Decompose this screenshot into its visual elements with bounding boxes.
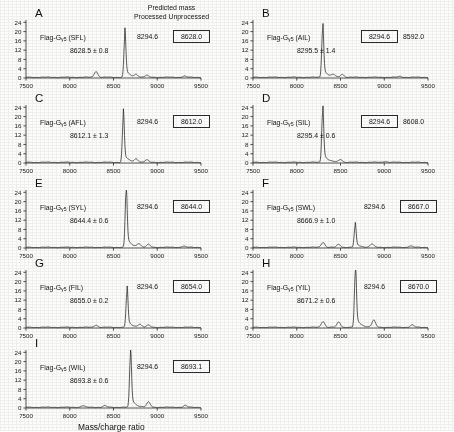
predicted-processed-value: 8294.6 — [361, 118, 398, 126]
y-tick-label: 16 — [15, 367, 22, 374]
y-tick-label: 12 — [242, 296, 249, 303]
y-tick-label: 20 — [15, 358, 22, 365]
sample-label-prefix: Flag-G — [40, 364, 61, 371]
panel-letter-c: C — [35, 92, 44, 104]
sample-label: Flag-Gγ5 (YIL) — [267, 284, 310, 292]
x-tick-label: 8500 — [334, 82, 348, 89]
sample-label: Flag-Gγ5 (AIL) — [267, 34, 310, 42]
x-tick-label: 8000 — [63, 412, 77, 419]
y-tick-label: 12 — [242, 216, 249, 223]
sample-label: Flag-Gγ5 (FIL) — [40, 284, 83, 292]
sample-label-prefix: Flag-G — [40, 284, 61, 291]
x-tick-label: 9500 — [421, 332, 435, 339]
predicted-processed-text: 8294.6 — [134, 281, 161, 292]
y-tick-label: 16 — [242, 37, 249, 44]
predicted-processed-text: 8294.6 — [361, 201, 388, 212]
measured-mass-label: 8644.4 ± 0.6 — [70, 217, 108, 224]
sample-label-prefix: Flag-G — [40, 34, 61, 41]
y-tick-label: 4 — [245, 315, 249, 322]
sample-label-prefix: Flag-G — [267, 284, 288, 291]
y-tick-label: 8 — [245, 226, 249, 233]
x-tick-label: 8500 — [107, 82, 121, 89]
y-tick-label: 8 — [245, 141, 249, 148]
x-tick-label: 7500 — [246, 167, 260, 174]
predicted-unprocessed-value: 8667.0 — [400, 203, 437, 211]
x-tick-label: 9000 — [150, 412, 164, 419]
y-tick-label: 8 — [245, 306, 249, 313]
predicted-unprocessed-value: 8608.0 — [400, 118, 427, 126]
spectrum-panel-h: 0481216202475008000850090009500HFlag-Gγ5… — [227, 254, 432, 346]
predicted-unprocessed-text: 8670.0 — [400, 280, 437, 293]
predicted-unprocessed-text: 8628.0 — [173, 30, 210, 43]
y-tick-label: 8 — [18, 141, 22, 148]
predicted-processed-value: 8294.6 — [361, 283, 388, 291]
predicted-unprocessed-text: 8612.0 — [173, 115, 210, 128]
x-tick-label: 7500 — [19, 412, 33, 419]
spectrum-trace — [26, 190, 201, 248]
measured-mass-label: 8693.8 ± 0.6 — [70, 377, 108, 384]
y-tick-label: 4 — [18, 235, 22, 242]
y-tick-label: 20 — [242, 198, 249, 205]
y-tick-label: 20 — [15, 198, 22, 205]
y-tick-label: 24 — [242, 269, 249, 276]
y-tick-label: 0 — [18, 159, 22, 166]
y-tick-label: 16 — [242, 122, 249, 129]
predicted-unprocessed-text: 8667.0 — [400, 200, 437, 213]
sample-label: Flag-Gγ5 (SYL) — [40, 204, 86, 212]
spectrum-panel-g: 0481216202475008000850090009500GFlag-Gγ5… — [0, 254, 205, 346]
predicted-processed-value: 8294.6 — [134, 283, 161, 291]
x-tick-label: 7500 — [19, 167, 33, 174]
predicted-unprocessed-value: 8592.0 — [400, 33, 427, 41]
sample-label-suffix: (AFL) — [67, 119, 86, 126]
x-tick-label: 8500 — [334, 332, 348, 339]
y-tick-label: 12 — [15, 131, 22, 138]
x-tick-label: 9000 — [377, 82, 391, 89]
predicted-processed-text: 8294.6 — [134, 361, 161, 372]
sample-label-suffix: (SFL) — [67, 34, 86, 41]
sample-label-prefix: Flag-G — [267, 119, 288, 126]
measured-mass-label: 8655.0 ± 0.2 — [70, 297, 108, 304]
sample-label-suffix: (SYL) — [67, 204, 87, 211]
y-tick-label: 24 — [15, 349, 22, 356]
y-tick-label: 24 — [15, 189, 22, 196]
y-tick-label: 16 — [15, 122, 22, 129]
y-tick-label: 12 — [15, 296, 22, 303]
y-tick-label: 20 — [15, 28, 22, 35]
y-tick-label: 4 — [245, 235, 249, 242]
y-tick-label: 16 — [242, 287, 249, 294]
predicted-unprocessed-value: 8654.0 — [173, 283, 210, 291]
x-tick-label: 9500 — [194, 82, 208, 89]
sample-label-prefix: Flag-G — [267, 204, 288, 211]
y-tick-label: 4 — [18, 395, 22, 402]
spectrum-trace — [253, 270, 428, 328]
x-tick-label: 9500 — [421, 82, 435, 89]
sample-label-suffix: (SWL) — [294, 204, 315, 211]
predicted-processed-text: 8294.6 — [361, 30, 398, 43]
predicted-unprocessed-value: 8612.0 — [173, 118, 210, 126]
x-tick-label: 8000 — [290, 332, 304, 339]
sample-label: Flag-Gγ5 (SIL) — [267, 119, 310, 127]
y-tick-label: 0 — [18, 244, 22, 251]
predicted-processed-text: 8294.6 — [361, 115, 398, 128]
y-tick-label: 20 — [242, 28, 249, 35]
y-tick-label: 20 — [15, 113, 22, 120]
y-tick-label: 24 — [15, 19, 22, 26]
x-tick-label: 9500 — [194, 412, 208, 419]
x-tick-label: 9000 — [377, 332, 391, 339]
predicted-unprocessed-value: 8670.0 — [400, 283, 437, 291]
sample-label-prefix: Flag-G — [40, 204, 61, 211]
predicted-unprocessed-value: 8644.0 — [173, 203, 210, 211]
x-tick-label: 8000 — [290, 167, 304, 174]
x-tick-label: 8500 — [107, 167, 121, 174]
y-tick-label: 16 — [242, 207, 249, 214]
x-tick-label: 8000 — [63, 82, 77, 89]
x-tick-label: 9500 — [194, 167, 208, 174]
y-tick-label: 4 — [18, 315, 22, 322]
sample-label: Flag-Gγ5 (SWL) — [267, 204, 315, 212]
measured-mass-label: 8628.5 ± 0.8 — [70, 47, 108, 54]
panel-letter-e: E — [35, 177, 43, 189]
y-tick-label: 8 — [245, 56, 249, 63]
y-tick-label: 8 — [18, 56, 22, 63]
sample-label-suffix: (AIL) — [294, 34, 311, 41]
